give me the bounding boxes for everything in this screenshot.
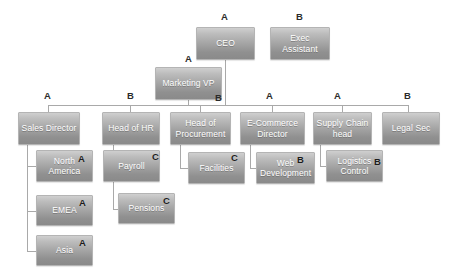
org-node-label: Sales Director (21, 123, 77, 134)
org-node-label: Supply Chainhead (316, 118, 369, 139)
level-badge-pensions: C (163, 196, 170, 206)
level-badge-supply_chain_head: A (334, 91, 341, 101)
org-node-label: Legal Sec (385, 123, 437, 134)
level-badge-ecommerce_director: A (266, 91, 273, 101)
org-node-supply_chain_head[interactable]: Supply Chainhead (313, 112, 372, 145)
connector-line (180, 145, 188, 168)
org-node-marketing_vp[interactable]: Marketing VP (155, 67, 222, 100)
level-badge-north_america: A (78, 154, 85, 164)
org-node-legal_sec[interactable]: Legal Sec (382, 112, 440, 145)
level-badge-exec_assistant: B (296, 12, 303, 22)
connector-line (27, 145, 36, 251)
level-badge-facilities: C (231, 153, 238, 163)
org-node-label: WebDevelopment (259, 158, 312, 179)
org-node-label: LogisticsControl (329, 156, 380, 177)
org-node-label: Payroll (106, 161, 157, 172)
org-chart: CEOExecAssistantMarketing VPSales Direct… (0, 0, 456, 279)
level-badge-ceo: A (221, 12, 228, 22)
org-node-label: Marketing VP (158, 78, 219, 89)
org-node-label: Head ofProcurement (173, 118, 228, 139)
org-node-label: ExecAssistant (273, 33, 327, 54)
org-node-label: CEO (199, 38, 252, 49)
level-badge-head_of_procurement: B (215, 93, 222, 103)
level-badge-asia: A (79, 238, 86, 248)
level-badge-logistics_control: B (374, 157, 381, 167)
level-badge-sales_director: A (44, 91, 51, 101)
org-node-label: Head of HR (105, 123, 157, 134)
org-node-web_development[interactable]: WebDevelopment (256, 152, 315, 184)
level-badge-legal_sec: B (404, 91, 411, 101)
org-node-ecommerce_director[interactable]: E-CommerceDirector (240, 112, 305, 145)
org-node-label: E-CommerceDirector (243, 118, 302, 139)
org-node-sales_director[interactable]: Sales Director (18, 112, 80, 145)
level-badge-web_development: B (297, 155, 304, 165)
level-badge-payroll: C (152, 152, 159, 162)
org-node-exec_assistant[interactable]: ExecAssistant (270, 27, 330, 60)
org-node-label: Facilities (191, 163, 242, 174)
org-node-head_of_hr[interactable]: Head of HR (102, 112, 160, 145)
level-badge-marketing_vp: A (185, 54, 192, 64)
org-node-head_of_procurement[interactable]: Head ofProcurement (170, 112, 231, 145)
org-node-ceo[interactable]: CEO (196, 27, 255, 60)
level-badge-head_of_hr: B (127, 91, 134, 101)
level-badge-emea: A (79, 198, 86, 208)
